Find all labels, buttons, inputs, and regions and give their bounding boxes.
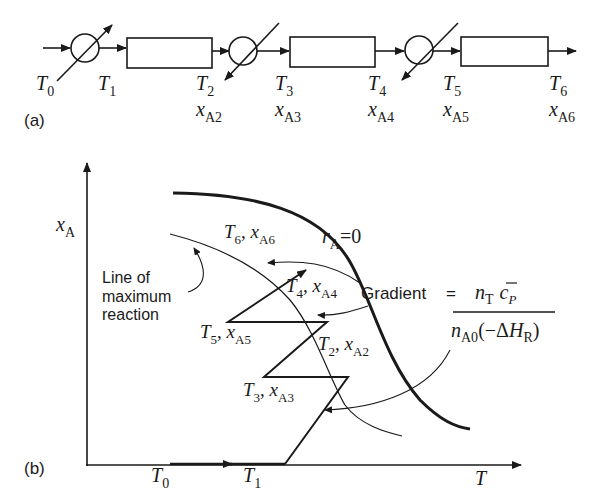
panel-b-label: (b) xyxy=(24,459,45,478)
stream-label-xA6: xA6 xyxy=(548,98,575,125)
stream-label-T6: T6 xyxy=(549,72,567,99)
heat-exchanger-3-icon xyxy=(405,36,433,64)
point-label-T6-xA6: T6, xA6 xyxy=(224,221,275,247)
point-label-T5-xA5: T5, xA5 xyxy=(200,321,251,347)
stream-label-T2: T2 xyxy=(196,72,214,99)
stream-label-T1: T1 xyxy=(98,72,116,99)
stream-label-T3: T3 xyxy=(275,72,293,99)
stream-label-T0: T0 xyxy=(36,72,54,99)
stream-label-T4: T4 xyxy=(368,72,386,99)
point-label-T2-xA2: T2, xA2 xyxy=(318,333,369,359)
diagram-canvas: T0 T1 T2 xA2 T3 xA3 T4 xA4 T5 xA5 T6 xA6… xyxy=(0,0,591,496)
gradient-label: Gradient xyxy=(361,284,426,303)
max-reaction-label-line3: reaction xyxy=(102,306,159,323)
x-tick-T0: T0 xyxy=(151,464,169,491)
x-axis-label: T xyxy=(475,467,488,489)
heat-exchanger-1-icon xyxy=(71,34,99,62)
gradient-pointer-2 xyxy=(318,306,368,315)
reactor-bed-2 xyxy=(290,37,375,67)
max-reaction-pointer xyxy=(188,248,203,292)
x-tick-T1: T1 xyxy=(243,464,261,491)
gradient-equals: = xyxy=(446,284,456,303)
point-label-T4-xA4: T4, xA4 xyxy=(286,275,337,301)
reactor-bed-1 xyxy=(127,38,212,68)
y-axis-label: xA xyxy=(55,213,76,240)
panel-a-labels: T0 T1 T2 xA2 T3 xA3 T4 xA4 T5 xA5 T6 xA6… xyxy=(24,72,575,130)
point-label-T3-xA3: T3, xA3 xyxy=(243,379,294,405)
stream-label-xA3: xA3 xyxy=(274,98,301,125)
gradient-pointer-3 xyxy=(325,350,450,410)
stream-label-xA5: xA5 xyxy=(442,98,469,125)
stream-label-T5: T5 xyxy=(443,72,461,99)
panel-a-flowsheet xyxy=(43,23,576,81)
reactor-bed-3 xyxy=(461,37,548,66)
panel-b-labels: xA T T0 T1 (b) rA=0 Line of maximum reac… xyxy=(24,213,555,491)
max-reaction-label-line1: Line of xyxy=(102,269,151,286)
max-reaction-label-line2: maximum xyxy=(102,288,171,305)
panel-a-label: (a) xyxy=(24,111,45,130)
stream-label-xA2: xA2 xyxy=(195,98,222,125)
gradient-denominator: nA0(−ΔHR) xyxy=(451,319,539,345)
stream-label-xA4: xA4 xyxy=(367,98,394,125)
gradient-numerator: nTcP xyxy=(475,281,516,307)
